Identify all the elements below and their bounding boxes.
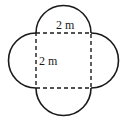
bottom-semicircle: [36, 88, 91, 115]
diagram-canvas: 2 m 2 m: [0, 0, 125, 123]
left-side-label: 2 m: [39, 54, 58, 68]
left-semicircle: [9, 33, 36, 88]
right-semicircle: [91, 33, 118, 88]
top-side-label: 2 m: [56, 18, 75, 32]
